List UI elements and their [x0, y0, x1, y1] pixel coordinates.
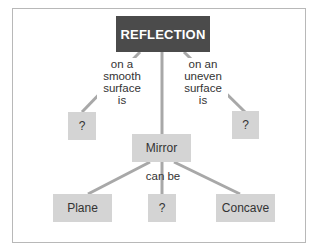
link-label-smooth: on a smooth surface is [97, 58, 147, 106]
root-label: REFLECTION [120, 27, 205, 42]
link-label-can-be: can be [141, 170, 185, 182]
node-uneven-unknown: ? [232, 111, 259, 139]
node-mirror-unknown: ? [148, 194, 176, 222]
node-smooth-unknown: ? [68, 112, 96, 140]
root-node-reflection: REFLECTION [116, 16, 210, 52]
node-concave: Concave [216, 194, 275, 222]
node-mirror: Mirror [132, 134, 191, 162]
node-plane: Plane [53, 194, 112, 222]
link-label-uneven: on an uneven surface is [178, 58, 228, 106]
